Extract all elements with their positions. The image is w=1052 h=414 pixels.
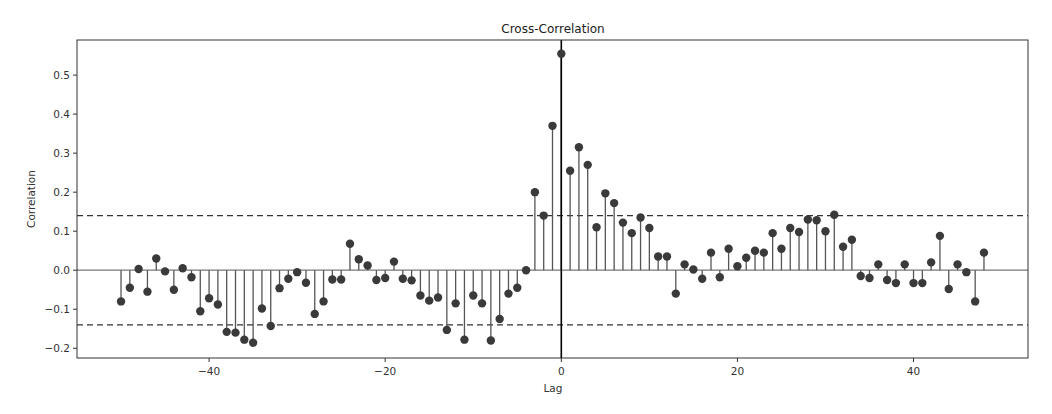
- data-point: [848, 236, 856, 244]
- data-point: [443, 326, 451, 334]
- data-point: [698, 275, 706, 283]
- data-point: [733, 262, 741, 270]
- data-point: [214, 300, 222, 308]
- data-point: [724, 245, 732, 253]
- data-point: [786, 224, 794, 232]
- x-axis-ticks: −40−2002040: [198, 358, 920, 377]
- y-tick-label: −0.2: [45, 342, 71, 354]
- plot-area: [77, 40, 1028, 358]
- data-point: [830, 211, 838, 219]
- data-point: [689, 265, 697, 273]
- data-point: [619, 218, 627, 226]
- data-point: [883, 276, 891, 284]
- data-point: [909, 279, 917, 287]
- data-point: [892, 279, 900, 287]
- data-point: [610, 199, 618, 207]
- data-point: [654, 252, 662, 260]
- data-point: [804, 215, 812, 223]
- data-point: [222, 328, 230, 336]
- data-point: [839, 243, 847, 251]
- data-point: [918, 279, 926, 287]
- data-point: [636, 213, 644, 221]
- data-point: [680, 260, 688, 268]
- data-point: [522, 266, 530, 274]
- data-point: [346, 239, 354, 247]
- data-point: [504, 289, 512, 297]
- data-point: [363, 261, 371, 269]
- data-point: [293, 268, 301, 276]
- y-axis-label: Correlation: [25, 170, 37, 228]
- y-tick-label: −0.1: [45, 303, 71, 315]
- data-point: [962, 268, 970, 276]
- data-point: [865, 274, 873, 282]
- data-point: [795, 228, 803, 236]
- data-point: [284, 275, 292, 283]
- chart-title: Cross-Correlation: [501, 22, 604, 36]
- data-point: [856, 272, 864, 280]
- x-tick-label: 0: [558, 365, 565, 377]
- data-point: [751, 246, 759, 254]
- data-point: [760, 248, 768, 256]
- data-point: [178, 264, 186, 272]
- data-point: [399, 275, 407, 283]
- y-tick-label: 0.3: [53, 147, 70, 159]
- data-point: [434, 293, 442, 301]
- data-point: [311, 310, 319, 318]
- data-point: [601, 189, 609, 197]
- y-tick-label: 0.1: [53, 225, 70, 237]
- data-point: [478, 299, 486, 307]
- x-tick-label: 40: [907, 365, 920, 377]
- data-point: [381, 274, 389, 282]
- data-point: [451, 299, 459, 307]
- data-point: [275, 284, 283, 292]
- data-point: [707, 248, 715, 256]
- data-point: [302, 278, 310, 286]
- data-point: [487, 336, 495, 344]
- data-point: [249, 339, 257, 347]
- data-point: [328, 275, 336, 283]
- data-point: [531, 188, 539, 196]
- data-point: [258, 304, 266, 312]
- data-point: [416, 291, 424, 299]
- x-tick-label: 20: [731, 365, 744, 377]
- data-point: [469, 291, 477, 299]
- y-tick-label: 0.5: [53, 69, 70, 81]
- data-point: [575, 143, 583, 151]
- data-point: [945, 285, 953, 293]
- data-point: [425, 296, 433, 304]
- data-point: [407, 276, 415, 284]
- x-axis-label: Lag: [544, 382, 563, 394]
- data-point: [205, 294, 213, 302]
- data-point: [390, 257, 398, 265]
- data-point: [874, 260, 882, 268]
- data-point: [812, 216, 820, 224]
- data-point: [980, 248, 988, 256]
- data-point: [592, 223, 600, 231]
- data-point: [355, 255, 363, 263]
- data-point: [663, 252, 671, 260]
- data-point: [143, 287, 151, 295]
- data-point: [953, 260, 961, 268]
- data-point: [971, 297, 979, 305]
- data-point: [927, 258, 935, 266]
- data-point: [513, 284, 521, 292]
- data-point: [716, 273, 724, 281]
- data-point: [495, 315, 503, 323]
- data-point: [196, 307, 204, 315]
- data-point: [117, 297, 125, 305]
- y-tick-label: 0.4: [53, 108, 70, 120]
- data-point: [372, 276, 380, 284]
- y-tick-label: 0.2: [53, 186, 70, 198]
- data-point: [777, 245, 785, 253]
- data-point: [187, 273, 195, 281]
- y-tick-label: 0.0: [53, 264, 70, 276]
- data-point: [742, 254, 750, 262]
- data-point: [460, 335, 468, 343]
- data-point: [768, 229, 776, 237]
- y-axis-ticks: −0.2−0.10.00.10.20.30.40.5: [45, 69, 78, 354]
- data-point: [134, 265, 142, 273]
- data-point: [566, 167, 574, 175]
- data-point: [240, 335, 248, 343]
- data-point: [584, 161, 592, 169]
- data-point: [152, 254, 160, 262]
